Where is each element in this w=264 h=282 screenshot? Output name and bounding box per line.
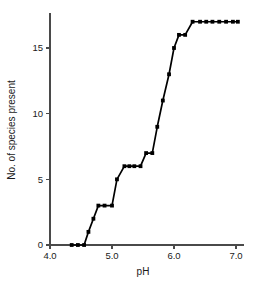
y-axis-ticks: 051015 [32,42,50,250]
data-point-marker [127,164,131,168]
data-point-marker [123,164,127,168]
data-point-marker [191,20,195,24]
data-point-marker [115,177,119,181]
data-point-marker [132,164,136,168]
data-point-marker [236,20,240,24]
x-tick-label: 4.0 [43,250,56,261]
data-point-marker [144,151,148,155]
y-axis-title: No. of species present [6,80,17,180]
data-point-marker [110,204,114,208]
x-tick-label: 6.0 [167,250,180,261]
data-point-marker [96,204,100,208]
species-richness-ph-chart: 051015 4.05.06.07.0 pH No. of species pr… [0,0,264,282]
data-point-marker [172,46,176,50]
y-tick-label: 10 [32,108,43,119]
data-point-marker [70,243,74,247]
y-tick-label: 0 [38,239,43,250]
data-point-marker [150,151,154,155]
data-point-marker [211,20,215,24]
x-axis-title: pH [137,266,150,277]
axes-group [50,13,244,245]
data-point-marker [198,20,202,24]
data-point-marker [76,243,80,247]
x-axis-ticks: 4.05.06.07.0 [43,245,242,261]
data-point-marker [231,20,235,24]
data-point-marker [161,99,165,103]
data-point-marker [177,33,181,37]
x-tick-label: 5.0 [105,250,118,261]
data-point-marker [103,204,107,208]
data-point-marker [87,230,91,234]
data-point-marker [204,20,208,24]
data-point-marker [155,125,159,129]
data-point-marker [183,33,187,37]
data-point-marker [167,72,171,76]
y-tick-label: 5 [38,174,43,185]
data-point-marker [224,20,228,24]
data-line-species-richness [72,22,238,245]
y-tick-label: 15 [32,42,43,53]
data-series-group [70,20,240,247]
data-point-marker [217,20,221,24]
data-point-marker [92,217,96,221]
data-point-marker [139,164,143,168]
chart-figure: 051015 4.05.06.07.0 pH No. of species pr… [0,0,264,282]
data-point-marker [82,243,86,247]
x-tick-label: 7.0 [229,250,242,261]
